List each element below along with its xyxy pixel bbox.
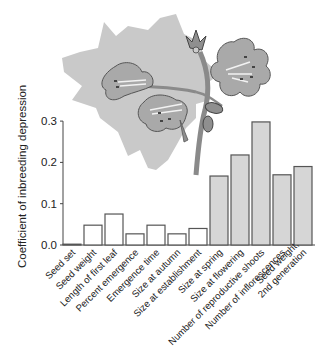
bar-emergence-time	[147, 225, 165, 245]
x-axis-tick-labels: Seed setSeed weightLength of first leafP…	[43, 239, 309, 347]
bar-chart: Coefficient of inbreeding depression 0.0…	[0, 0, 330, 362]
bar-seed-weight	[84, 225, 102, 245]
y-tick-label: 0.1	[41, 198, 57, 210]
bar-percent-emergence	[126, 234, 144, 245]
y-tick-label: 0.3	[41, 115, 57, 127]
bar-seed-weight-2nd-generation	[294, 167, 312, 245]
bar-number-of-reproductive-shoots	[252, 122, 270, 245]
bar-length-of-first-leaf	[105, 214, 123, 245]
bar-size-at-spring	[210, 176, 228, 245]
y-axis-label: Coefficient of inbreeding depression	[16, 85, 28, 268]
y-tick-label: 0.2	[41, 156, 57, 168]
bar-seed-set	[63, 244, 81, 245]
bar-size-at-establishment	[189, 228, 207, 245]
bar-size-at-flowering	[231, 155, 249, 245]
bar-size-at-autumn	[168, 234, 186, 245]
y-tick-label: 0.0	[41, 239, 57, 251]
bar-number-of-inflorescences	[273, 175, 291, 245]
bars	[63, 122, 312, 245]
